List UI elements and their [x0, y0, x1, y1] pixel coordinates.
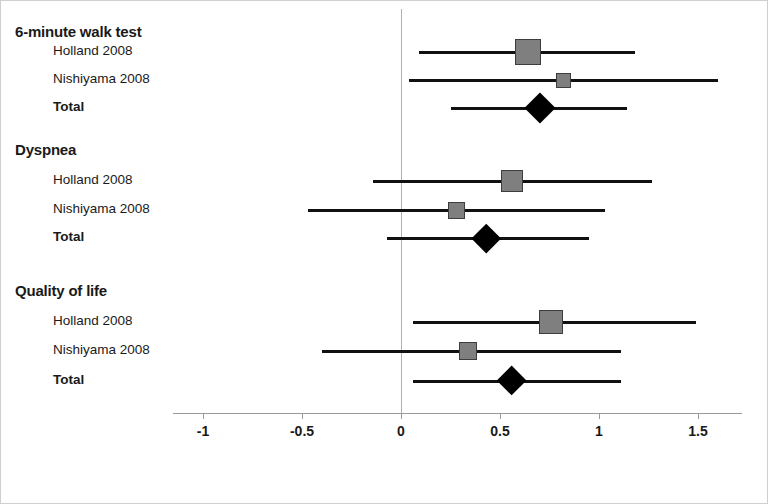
axis-tick: [203, 413, 204, 419]
x-axis-line: [173, 413, 741, 414]
axis-tick: [698, 413, 699, 419]
study-point-marker: [501, 170, 523, 192]
axis-tick: [302, 413, 303, 419]
study-point-marker: [556, 73, 571, 88]
x-axis: -1-0.500.511.5: [1, 413, 768, 477]
axis-tick-label: -0.5: [290, 423, 314, 439]
plot-area: [1, 1, 768, 441]
axis-tick: [500, 413, 501, 419]
summary-diamond-marker: [472, 224, 501, 253]
axis-tick-label: 0: [397, 423, 405, 439]
forest-plot-figure: 6-minute walk testHolland 2008Nishiyama …: [0, 0, 768, 504]
axis-tick-label: 1: [595, 423, 603, 439]
summary-diamond-marker: [497, 366, 527, 396]
axis-tick: [599, 413, 600, 419]
axis-tick-label: -1: [197, 423, 209, 439]
summary-diamond-marker: [524, 93, 555, 124]
study-point-marker: [459, 342, 477, 360]
study-point-marker: [515, 39, 541, 65]
study-point-marker: [448, 202, 465, 219]
axis-tick: [401, 413, 402, 419]
axis-tick-label: 0.5: [490, 423, 509, 439]
axis-tick-label: 1.5: [688, 423, 707, 439]
study-point-marker: [539, 310, 563, 334]
